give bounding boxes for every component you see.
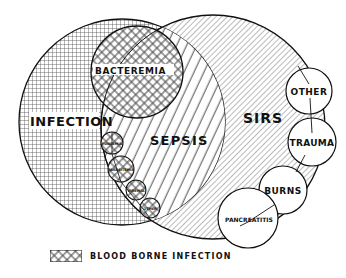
legend-label: BLOOD BORNE INFECTION — [90, 252, 232, 261]
parasitemia-label: PARASITEMIA — [108, 168, 134, 172]
venn-diagram: INFECTION SIRS SEPSIS BACTEREMIA FUNGEMI… — [0, 0, 346, 278]
bacteremia-label: BACTEREMIA — [95, 66, 166, 76]
burns-label: BURNS — [264, 186, 302, 196]
fungemia-label: FUNGEMIA — [102, 142, 123, 146]
other-label: OTHER — [291, 87, 328, 97]
legend: BLOOD BORNE INFECTION — [50, 250, 232, 262]
pancreatitis-label: PANCREATITIS — [225, 216, 273, 223]
viremia-label: VIREMIA — [127, 189, 144, 193]
sirs-label: SIRS — [243, 110, 283, 126]
infection-label: INFECTION — [30, 114, 113, 129]
legend-swatch — [50, 250, 82, 262]
trauma-label: TRAUMA — [290, 138, 335, 148]
sepsis-label: SEPSIS — [150, 133, 209, 148]
other-infection-label: OTHER — [143, 207, 157, 211]
